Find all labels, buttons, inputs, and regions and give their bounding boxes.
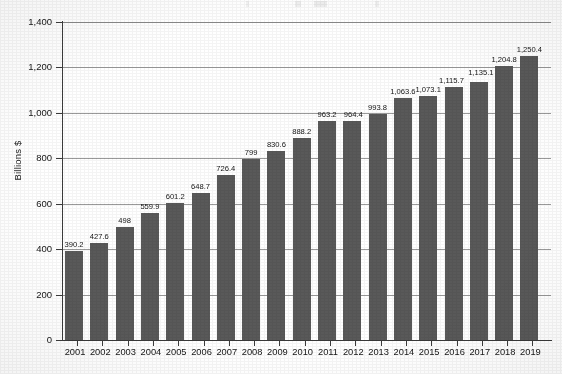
bar-value-label: 601.2 xyxy=(158,193,192,201)
x-axis-tick xyxy=(355,340,356,346)
bar[interactable] xyxy=(318,121,336,340)
x-axis-tick xyxy=(507,340,508,346)
x-axis-tick xyxy=(229,340,230,346)
bar[interactable] xyxy=(166,203,184,340)
y-axis-tick-label: 0 xyxy=(4,334,52,345)
x-axis-tick xyxy=(457,340,458,346)
plot-area: 390.2427.6498559.9601.2648.7726.4799830.… xyxy=(63,22,551,340)
bar-value-label: 1,204.8 xyxy=(487,56,521,64)
x-axis-tick-label: 2011 xyxy=(316,347,340,357)
x-axis-tick-label: 2019 xyxy=(518,347,542,357)
y-axis-tick-label: 1,200 xyxy=(4,61,52,72)
y-axis-tick xyxy=(56,67,63,68)
bar[interactable] xyxy=(192,193,210,340)
bar[interactable] xyxy=(495,66,513,340)
y-axis-tick-label: 1,400 xyxy=(4,16,52,27)
bar[interactable] xyxy=(217,175,235,340)
bar[interactable] xyxy=(343,121,361,340)
gridline xyxy=(63,22,551,23)
bar-value-label: 993.8 xyxy=(361,104,395,112)
x-axis-tick xyxy=(482,340,483,346)
bar-value-label: 1,115.7 xyxy=(435,77,469,85)
bar-value-label: 1,135.1 xyxy=(464,69,498,77)
x-axis-tick-label: 2001 xyxy=(63,347,87,357)
x-axis-tick xyxy=(532,340,533,346)
bar-value-label: 830.6 xyxy=(259,141,293,149)
bar[interactable] xyxy=(369,114,387,340)
x-axis-tick-label: 2006 xyxy=(190,347,214,357)
x-axis-tick xyxy=(77,340,78,346)
x-axis-tick-label: 2010 xyxy=(291,347,315,357)
x-axis-tick-label: 2017 xyxy=(468,347,492,357)
bar[interactable] xyxy=(470,82,488,340)
y-axis-tick xyxy=(56,340,63,341)
bar[interactable] xyxy=(90,243,108,340)
bar[interactable] xyxy=(116,227,134,340)
y-axis-tick xyxy=(56,204,63,205)
bar[interactable] xyxy=(293,138,311,340)
x-axis-tick-label: 2008 xyxy=(240,347,264,357)
bar-value-label: 1,250.4 xyxy=(512,46,546,54)
bar-value-label: 427.6 xyxy=(82,233,116,241)
bar[interactable] xyxy=(445,87,463,340)
bar[interactable] xyxy=(267,151,285,340)
x-axis-tick xyxy=(406,340,407,346)
x-axis-tick-label: 2007 xyxy=(215,347,239,357)
bar-value-label: 1,073.1 xyxy=(411,86,445,94)
x-axis-tick-label: 2005 xyxy=(164,347,188,357)
x-axis-tick-label: 2015 xyxy=(417,347,441,357)
x-axis-tick-label: 2018 xyxy=(493,347,517,357)
x-axis-tick xyxy=(102,340,103,346)
y-axis-tick-label: 600 xyxy=(4,198,52,209)
x-axis-tick xyxy=(128,340,129,346)
x-axis-tick-label: 2003 xyxy=(114,347,138,357)
x-axis-tick xyxy=(431,340,432,346)
x-axis-tick xyxy=(153,340,154,346)
x-axis-tick-label: 2009 xyxy=(265,347,289,357)
y-axis-tick xyxy=(56,295,63,296)
y-axis-tick-label: 400 xyxy=(4,243,52,254)
y-axis-tick-label: 200 xyxy=(4,289,52,300)
bar[interactable] xyxy=(65,251,83,340)
x-axis-tick-label: 2014 xyxy=(392,347,416,357)
y-axis-tick xyxy=(56,22,63,23)
x-axis-tick-label: 2002 xyxy=(88,347,112,357)
x-axis-tick xyxy=(381,340,382,346)
x-axis-tick-label: 2016 xyxy=(443,347,467,357)
bar[interactable] xyxy=(520,56,538,340)
x-axis-tick xyxy=(254,340,255,346)
bar-value-label: 888.2 xyxy=(285,128,319,136)
bar-value-label: 648.7 xyxy=(184,183,218,191)
bar-value-label: 498 xyxy=(108,217,142,225)
x-axis-tick xyxy=(279,340,280,346)
bar[interactable] xyxy=(419,96,437,340)
bar[interactable] xyxy=(242,159,260,340)
x-axis-tick xyxy=(178,340,179,346)
x-axis-tick-label: 2012 xyxy=(341,347,365,357)
x-axis-tick xyxy=(204,340,205,346)
bar-value-label: 559.9 xyxy=(133,203,167,211)
bar[interactable] xyxy=(394,98,412,340)
x-axis-tick xyxy=(330,340,331,346)
y-axis-tick xyxy=(56,249,63,250)
y-axis-tick-label: 800 xyxy=(4,152,52,163)
bar-value-label: 964.4 xyxy=(336,111,370,119)
x-axis-tick-label: 2013 xyxy=(367,347,391,357)
y-axis-tick xyxy=(56,158,63,159)
bar-value-label: 390.2 xyxy=(57,241,91,249)
x-axis-tick-label: 2004 xyxy=(139,347,163,357)
x-axis-tick xyxy=(305,340,306,346)
bar-value-label: 726.4 xyxy=(209,165,243,173)
bar[interactable] xyxy=(141,213,159,340)
bar-chart-figure: Billions $ 02004006008001,0001,2001,400 … xyxy=(0,0,562,374)
y-axis-tick-labels: 02004006008001,0001,2001,400 xyxy=(0,0,52,374)
scan-artifact xyxy=(238,1,428,7)
y-axis-tick xyxy=(56,113,63,114)
y-axis-tick-label: 1,000 xyxy=(4,107,52,118)
bar-value-label: 799 xyxy=(234,149,268,157)
